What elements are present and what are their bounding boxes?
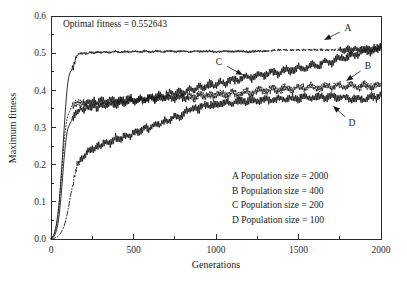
callout-c-arrow-head [236,69,243,75]
series-callouts-group: ABCD [216,23,371,128]
y-axis-title: Maximum fitness [7,93,18,163]
y-tick-label: 0.5 [34,48,46,58]
optimal-fitness-annotation: Optimal fitness = 0.552643 [63,19,167,29]
callout-b-arrow-head [346,75,353,81]
y-axis-tick-labels: 0.00.10.20.30.40.50.6 [34,11,46,244]
series-d-line-dashdot [51,158,80,239]
y-tick-label: 0.3 [34,123,46,133]
legend-item-c: C Population size = 200 [232,200,324,210]
callout-d-arrow-line [337,110,345,117]
legend-item-b: B Population size = 400 [232,186,324,196]
series-label-c: C [216,57,222,67]
callout-a-arrow-line [329,32,340,38]
series-label-d: D [349,118,356,128]
x-axis-ticks [51,234,381,239]
y-axis-ticks [51,16,56,239]
callout-c-arrow-line [227,66,238,72]
x-tick-label: 2000 [372,245,391,255]
x-tick-label: 0 [49,245,54,255]
x-tick-label: 1500 [289,245,308,255]
y-tick-label: 0.6 [34,11,46,21]
chart-canvas: 0.00.10.20.30.40.50.6 0500100015002000 A… [0,0,407,285]
x-tick-label: 500 [126,245,141,255]
legend: A Population size = 2000B Population siz… [232,171,328,225]
y-tick-label: 0.0 [34,234,46,244]
x-axis-title: Generations [192,259,240,270]
data-series-group [51,43,381,239]
callout-b-arrow-line [351,71,361,78]
legend-item-a: A Population size = 2000 [232,171,328,181]
series-b-line-dotted [51,99,83,238]
figure-container: 0.00.10.20.30.40.50.6 0500100015002000 A… [0,0,407,285]
callout-a-arrow-head [324,34,332,40]
series-a-line-dashed [265,47,341,52]
series-label-a: A [345,23,352,33]
series-c-line [51,43,381,239]
y-tick-label: 0.1 [34,197,46,207]
x-tick-label: 1000 [207,245,226,255]
series-label-b: B [365,61,371,71]
legend-item-d: D Population size = 100 [232,215,324,225]
y-tick-label: 0.2 [34,160,46,170]
x-axis-tick-labels: 0500100015002000 [49,245,391,255]
y-tick-label: 0.4 [34,86,46,96]
